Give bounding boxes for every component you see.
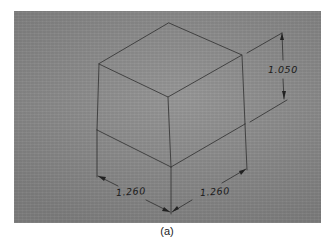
arrowhead-left-a bbox=[98, 176, 106, 181]
extension-line-bottom bbox=[250, 100, 287, 122]
extension-line-right bbox=[245, 124, 247, 170]
arrowhead-left-b bbox=[162, 207, 170, 212]
arrowhead-height-bottom bbox=[282, 91, 286, 99]
dimension-label-right-width: 1.260 bbox=[200, 185, 230, 198]
edge-right-vertical bbox=[242, 55, 245, 124]
edge-left-vertical bbox=[97, 64, 99, 130]
figure-caption: (a) bbox=[0, 225, 334, 237]
dimension-label-height: 1.050 bbox=[268, 64, 298, 75]
edge-bottom-left bbox=[97, 130, 171, 167]
edge-bottom-right bbox=[171, 124, 245, 167]
arrowhead-right-b bbox=[239, 169, 246, 175]
edge-front-vertical bbox=[168, 97, 171, 167]
top-face bbox=[99, 23, 242, 97]
dimension-label-left-width: 1.260 bbox=[116, 185, 146, 198]
arrowhead-right-a bbox=[172, 206, 179, 212]
extension-line-top bbox=[247, 33, 282, 53]
isometric-block-sketch bbox=[0, 0, 334, 247]
